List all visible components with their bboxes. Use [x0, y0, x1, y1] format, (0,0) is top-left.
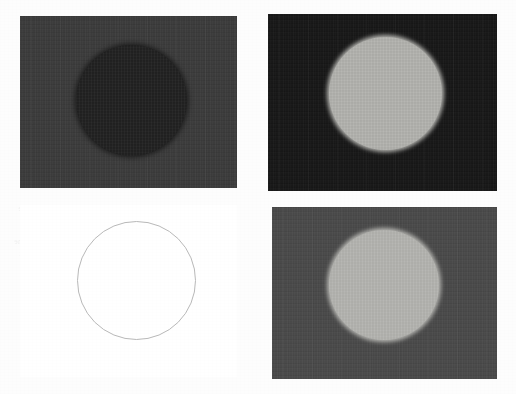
light-disc: [329, 230, 439, 340]
scan-page: night-time ambient the temperatureunder …: [0, 0, 516, 394]
panel-top-right: [268, 14, 497, 191]
panel-bottom-right: [272, 207, 497, 379]
disc-noise-overlay: [329, 37, 442, 150]
dark-disc: [76, 45, 187, 156]
light-disc: [329, 37, 442, 150]
panel-bottom-left: [20, 205, 237, 377]
disc-noise-overlay: [329, 230, 439, 340]
circle-outline: [77, 221, 196, 340]
panel-top-left: [20, 16, 237, 188]
disc-noise-overlay: [76, 45, 187, 156]
